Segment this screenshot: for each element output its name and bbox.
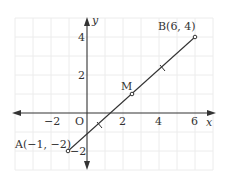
x-axis-left-arrow-icon: [12, 110, 21, 116]
point-b: [193, 35, 197, 39]
y-axis-label: y: [91, 14, 99, 27]
point-b-label: B(6, 4): [158, 20, 196, 33]
origin-label: O: [75, 115, 84, 128]
coordinate-diagram: x y O −2 2 4 6 4 2 −2 A(−1, −2) B(6, 4) …: [0, 0, 226, 175]
point-a-label: A(−1, −2): [14, 138, 71, 151]
x-tick-label: 6: [191, 115, 198, 128]
x-tick-label: 2: [119, 115, 126, 128]
y-tick-label: 2: [78, 69, 85, 82]
point-m-label: M: [121, 80, 132, 93]
x-tick-label: −2: [44, 115, 60, 128]
x-axis: [12, 110, 216, 116]
x-axis-label: x: [206, 116, 213, 129]
y-tick-label: 4: [78, 31, 85, 44]
y-axis-down-arrow-icon: [84, 161, 90, 170]
x-tick-label: 4: [155, 115, 162, 128]
